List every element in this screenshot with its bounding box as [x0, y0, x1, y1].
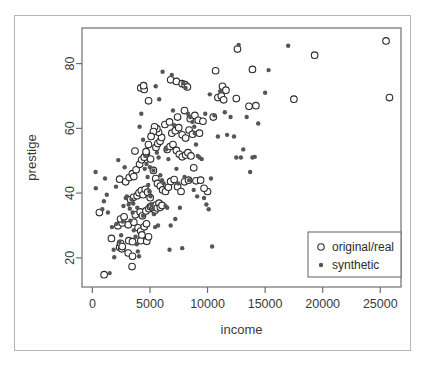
data-point-synthetic: [187, 178, 191, 182]
data-point-synthetic: [107, 271, 111, 275]
data-point-synthetic: [130, 210, 134, 214]
data-point-synthetic: [156, 223, 160, 227]
data-point-synthetic: [157, 97, 161, 101]
y-tick-label: 80: [63, 57, 77, 71]
data-point-synthetic: [114, 222, 118, 226]
data-point-original-real: [166, 119, 173, 126]
x-tick-label: 15000: [248, 297, 283, 311]
data-point-synthetic: [126, 202, 130, 206]
data-point-synthetic: [188, 115, 192, 119]
data-point-synthetic: [162, 181, 166, 185]
data-point-original-real: [108, 235, 115, 242]
data-point-synthetic: [102, 199, 106, 203]
y-tick-label: 40: [63, 186, 77, 200]
data-point-synthetic: [145, 175, 149, 179]
data-point-original-real: [212, 67, 219, 74]
data-point-original-real: [190, 165, 197, 172]
data-point-synthetic: [103, 176, 107, 180]
data-point-synthetic: [129, 197, 133, 201]
data-point-synthetic: [225, 133, 229, 137]
data-point-synthetic: [183, 86, 187, 90]
x-tick-label: 20000: [305, 297, 340, 311]
data-point-synthetic: [182, 175, 186, 179]
data-point-original-real: [234, 46, 241, 53]
data-point-synthetic: [122, 165, 126, 169]
data-point-synthetic: [121, 219, 125, 223]
x-axis-title: income: [221, 322, 263, 337]
data-point-original-real: [178, 188, 185, 195]
data-point-synthetic: [135, 242, 139, 246]
data-point-synthetic: [202, 196, 206, 200]
data-point-synthetic: [143, 167, 147, 171]
data-point-synthetic: [244, 115, 248, 119]
y-axis-title: prestige: [24, 134, 39, 180]
data-point-synthetic: [160, 70, 164, 74]
data-point-synthetic: [105, 193, 109, 197]
data-point-synthetic: [192, 188, 196, 192]
data-point-synthetic: [212, 113, 216, 117]
data-point-synthetic: [151, 168, 155, 172]
data-point-synthetic: [147, 189, 151, 193]
data-point-synthetic: [114, 184, 118, 188]
data-point-synthetic: [146, 183, 150, 187]
data-point-synthetic: [131, 201, 135, 205]
data-point-synthetic: [139, 112, 143, 116]
data-point-synthetic: [172, 123, 176, 127]
data-point-synthetic: [236, 43, 240, 47]
data-point-synthetic: [248, 170, 252, 174]
data-point-original-real: [139, 232, 146, 239]
data-point-synthetic: [156, 155, 160, 159]
data-point-original-real: [145, 141, 152, 148]
data-point-synthetic: [173, 217, 177, 221]
x-tick-label: 5000: [136, 297, 164, 311]
data-point-original-real: [175, 124, 182, 131]
data-point-synthetic: [180, 246, 184, 250]
data-point-original-real: [196, 130, 203, 137]
data-point-original-real: [147, 156, 154, 163]
data-point-synthetic: [141, 137, 145, 141]
data-point-synthetic: [168, 223, 172, 227]
data-point-original-real: [129, 253, 136, 260]
data-point-synthetic: [286, 44, 290, 48]
y-tick-label: 60: [63, 121, 77, 135]
data-point-original-real: [220, 97, 227, 104]
data-point-synthetic: [111, 248, 115, 252]
data-point-original-real: [291, 96, 298, 103]
legend-label-original-real: original/real: [332, 240, 394, 254]
data-point-synthetic: [192, 125, 196, 129]
data-point-synthetic: [256, 121, 260, 125]
data-point-synthetic: [137, 125, 141, 129]
data-point-original-real: [143, 221, 150, 228]
data-point-synthetic: [94, 186, 98, 190]
data-point-original-real: [182, 135, 189, 142]
data-point-synthetic: [132, 228, 136, 232]
data-point-synthetic: [195, 194, 199, 198]
data-point-synthetic: [106, 210, 110, 214]
data-point-original-real: [145, 98, 152, 105]
data-point-synthetic: [228, 115, 232, 119]
data-point-synthetic: [178, 205, 182, 209]
data-point-synthetic: [204, 202, 208, 206]
data-point-synthetic: [223, 110, 227, 114]
data-point-synthetic: [239, 155, 243, 159]
data-point-synthetic: [232, 134, 236, 138]
x-tick-label: 0: [89, 297, 96, 311]
data-point-synthetic: [135, 205, 139, 209]
data-point-synthetic: [266, 68, 270, 72]
data-point-synthetic: [151, 207, 155, 211]
data-point-original-real: [171, 176, 178, 183]
data-point-original-real: [383, 38, 390, 45]
data-point-synthetic: [165, 205, 169, 209]
data-point-original-real: [131, 173, 138, 180]
data-point-synthetic: [110, 225, 114, 229]
data-point-synthetic: [218, 89, 222, 93]
data-point-synthetic: [93, 170, 97, 174]
data-point-synthetic: [241, 147, 245, 151]
data-point-original-real: [101, 271, 108, 278]
data-point-original-real: [140, 82, 147, 89]
data-point-synthetic: [119, 233, 123, 237]
data-point-original-real: [233, 95, 240, 102]
legend-marker-synthetic: [319, 263, 323, 267]
legend-marker-original-real: [318, 244, 324, 250]
data-point-original-real: [188, 153, 195, 160]
